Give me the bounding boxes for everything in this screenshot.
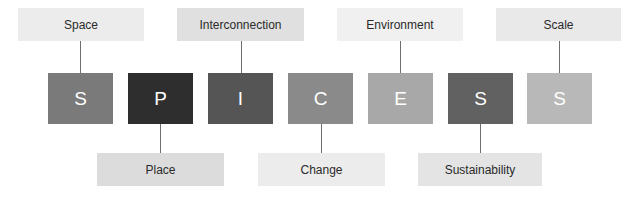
- label-interconnection: Interconnection: [177, 8, 304, 41]
- connector-change: [321, 124, 322, 153]
- letter-e-environment: E: [368, 73, 433, 124]
- letter-i-interconnection: I: [208, 73, 273, 124]
- label-space: Space: [18, 8, 144, 41]
- letter-p-place: P: [128, 73, 193, 124]
- letter-s-space: S: [48, 73, 113, 124]
- connector-space: [80, 41, 81, 73]
- connector-interconnection: [241, 41, 242, 73]
- label-sustainability: Sustainability: [418, 153, 542, 186]
- letter-s-scale: S: [527, 73, 592, 124]
- connector-sustainability: [480, 124, 481, 153]
- letter-c-change: C: [288, 73, 353, 124]
- label-change: Change: [258, 153, 385, 186]
- label-environment: Environment: [337, 8, 463, 41]
- connector-place: [160, 124, 161, 153]
- connector-scale: [559, 41, 560, 73]
- label-place: Place: [97, 153, 224, 186]
- letter-s-sustainability: S: [448, 73, 513, 124]
- label-scale: Scale: [496, 8, 621, 41]
- connector-environment: [400, 41, 401, 73]
